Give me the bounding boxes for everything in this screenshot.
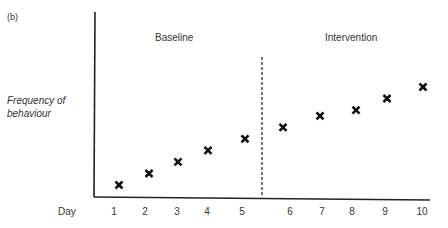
x-tick-label: 5	[239, 206, 245, 217]
data-point-marker	[384, 95, 391, 102]
data-point-marker	[280, 124, 287, 131]
data-point-marker	[353, 107, 360, 114]
data-point-marker	[242, 135, 249, 142]
x-tick-label: 4	[204, 206, 210, 217]
data-markers	[116, 84, 427, 189]
data-point-marker	[116, 182, 123, 189]
x-tick-label: 7	[319, 206, 325, 217]
data-point-marker	[317, 112, 324, 119]
data-point-marker	[175, 158, 182, 165]
x-tick-label: 6	[287, 206, 293, 217]
x-tick-label: 9	[382, 206, 388, 217]
x-tick-label: 2	[142, 206, 148, 217]
plot-area	[0, 0, 448, 228]
y-axis	[94, 12, 95, 197]
x-tick-label: 3	[174, 206, 180, 217]
x-tick-label: 8	[349, 206, 355, 217]
data-point-marker	[146, 170, 153, 177]
x-tick-label: 10	[416, 206, 427, 217]
x-tick-label: 1	[111, 206, 117, 217]
data-point-marker	[420, 84, 427, 91]
x-axis-label: Day	[58, 206, 76, 217]
data-point-marker	[205, 147, 212, 154]
x-axis	[94, 197, 430, 200]
